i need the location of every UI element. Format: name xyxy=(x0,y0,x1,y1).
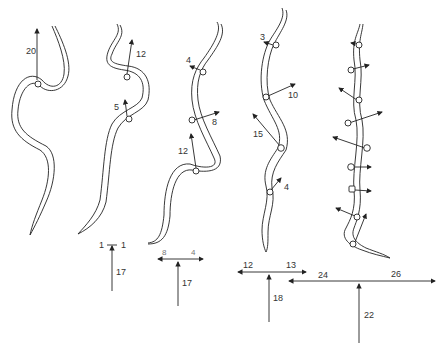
right-force-label: 1 xyxy=(121,240,126,250)
resultant-2: 8 4 17 xyxy=(158,248,203,306)
snake-4: 3 10 15 4 xyxy=(253,8,298,252)
vector-label: 3 xyxy=(260,32,265,42)
forward-force-label: 22 xyxy=(364,310,374,320)
right-force-label: 13 xyxy=(286,260,296,270)
forward-force-label: 17 xyxy=(116,267,126,277)
snake-3: 4 8 12 xyxy=(148,22,223,244)
left-force-label: 24 xyxy=(318,270,328,280)
vector-label: 15 xyxy=(253,129,263,139)
resultant-3: 12 13 18 xyxy=(238,260,306,322)
left-force-label: 8 xyxy=(162,248,167,257)
vector-label: 20 xyxy=(26,46,36,56)
vector-label: 4 xyxy=(284,182,289,192)
forward-force-label: 18 xyxy=(273,293,283,303)
vector-label: 5 xyxy=(114,102,119,112)
snake-1: 20 xyxy=(12,26,69,235)
vector-label: 12 xyxy=(178,146,188,156)
forward-force-label: 17 xyxy=(182,278,192,288)
left-force-label: 1 xyxy=(99,240,104,250)
vector-label: 8 xyxy=(212,117,217,127)
left-force-label: 12 xyxy=(243,260,253,270)
snake-force-diagram: 20 12 5 4 8 12 3 10 15 xyxy=(0,0,448,353)
right-force-label: 4 xyxy=(191,248,196,257)
resultant-1: 1 1 17 xyxy=(99,240,126,291)
right-force-label: 26 xyxy=(391,269,401,279)
vector-label: 10 xyxy=(288,90,298,100)
snake-5 xyxy=(333,24,390,258)
snake-2: 12 5 xyxy=(78,24,149,234)
vector-label: 12 xyxy=(136,49,146,59)
resultant-4: 24 26 22 xyxy=(289,269,435,343)
vector-label: 4 xyxy=(186,55,191,65)
